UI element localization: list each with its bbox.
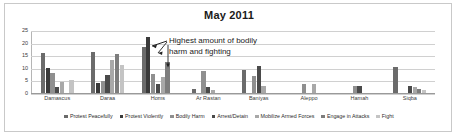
annotation-line-1: Highest amount of bodily	[169, 36, 319, 47]
bar-group	[32, 31, 82, 93]
bar-group	[82, 31, 132, 93]
x-tick-label: Hamah	[334, 96, 384, 102]
legend-swatch-icon	[64, 115, 68, 119]
x-tick-label: Aleppo	[284, 96, 334, 102]
bar	[120, 65, 124, 93]
bar-group	[334, 31, 384, 93]
x-tick-label: Homs	[133, 96, 183, 102]
bar	[302, 84, 306, 93]
bar	[156, 84, 160, 93]
bar-group	[385, 31, 435, 93]
bar	[110, 60, 114, 93]
bar	[417, 89, 421, 93]
chart-title: May 2011	[0, 9, 458, 21]
bar	[151, 74, 155, 93]
bar	[165, 62, 169, 94]
bar	[261, 86, 265, 93]
bar	[91, 52, 95, 93]
legend-swatch-icon	[120, 115, 124, 119]
legend-item[interactable]: Protest Violently	[120, 114, 164, 119]
bar	[413, 87, 417, 93]
legend-label: Bodily Harm	[176, 114, 205, 119]
legend-label: Mobilize Armed Forces	[261, 114, 315, 119]
bar	[46, 68, 50, 93]
bar	[161, 77, 165, 93]
bar	[353, 86, 357, 93]
legend-item[interactable]: Engage in Attacks	[321, 114, 369, 119]
bar	[242, 70, 246, 93]
y-tick-label: 10	[22, 66, 28, 72]
x-axis-labels: DamascusDaraaHomsAr RastanBaniyasAleppoH…	[32, 96, 435, 102]
legend-item[interactable]: Bodily Harm	[170, 114, 204, 119]
bar	[422, 90, 426, 93]
x-tick-label: Ar Rastan	[183, 96, 233, 102]
legend-label: Protest Violently	[125, 114, 163, 119]
bar	[192, 89, 196, 93]
bar	[146, 37, 150, 93]
y-tick-label: 0	[25, 91, 28, 97]
bar	[69, 80, 73, 93]
bar	[201, 71, 205, 93]
bar	[101, 81, 105, 93]
annotation-line-2: harm and fighting	[169, 47, 319, 58]
bar	[142, 47, 146, 93]
chart-legend: Protest PeacefullyProtest ViolentlyBodil…	[0, 114, 458, 119]
bar	[211, 90, 215, 93]
legend-item[interactable]: Mobilize Armed Forces	[255, 114, 314, 119]
y-tick-label: 25	[22, 28, 28, 34]
legend-label: Fight	[382, 114, 394, 119]
legend-swatch-icon	[321, 115, 325, 119]
y-tick-label: 15	[22, 53, 28, 59]
gridline	[31, 94, 435, 95]
y-tick-label: 5	[25, 79, 28, 85]
legend-swatch-icon	[212, 115, 216, 119]
bar	[357, 86, 361, 93]
bar	[393, 67, 397, 93]
x-tick-label: Baniyas	[234, 96, 284, 102]
bar	[41, 53, 45, 93]
legend-swatch-icon	[376, 115, 380, 119]
chart-screenshot: May 2011 0510152025 DamascusDaraaHomsAr …	[0, 0, 458, 137]
legend-label: Protest Peacefully	[70, 114, 113, 119]
legend-swatch-icon	[170, 115, 174, 119]
legend-item[interactable]: Arrest/Detain	[212, 114, 248, 119]
x-tick-label: Siqba	[385, 96, 435, 102]
bar	[96, 83, 100, 93]
bar	[105, 75, 109, 93]
bar	[50, 73, 54, 93]
x-tick-label: Damascus	[32, 96, 82, 102]
bar	[60, 82, 64, 93]
bar	[312, 84, 316, 93]
legend-swatch-icon	[255, 115, 259, 119]
x-tick-label: Daraa	[82, 96, 132, 102]
legend-label: Engage in Attacks	[327, 114, 369, 119]
bar	[408, 86, 412, 93]
annotation-text: Highest amount of bodily harm and fighti…	[169, 36, 319, 57]
bar	[206, 87, 210, 93]
legend-item[interactable]: Fight	[376, 114, 393, 119]
bar	[55, 87, 59, 93]
y-tick-label: 20	[22, 41, 28, 47]
bar	[115, 54, 119, 93]
bar	[257, 66, 261, 93]
bar	[252, 76, 256, 93]
legend-label: Arrest/Detain	[217, 114, 248, 119]
legend-item[interactable]: Protest Peacefully	[64, 114, 112, 119]
